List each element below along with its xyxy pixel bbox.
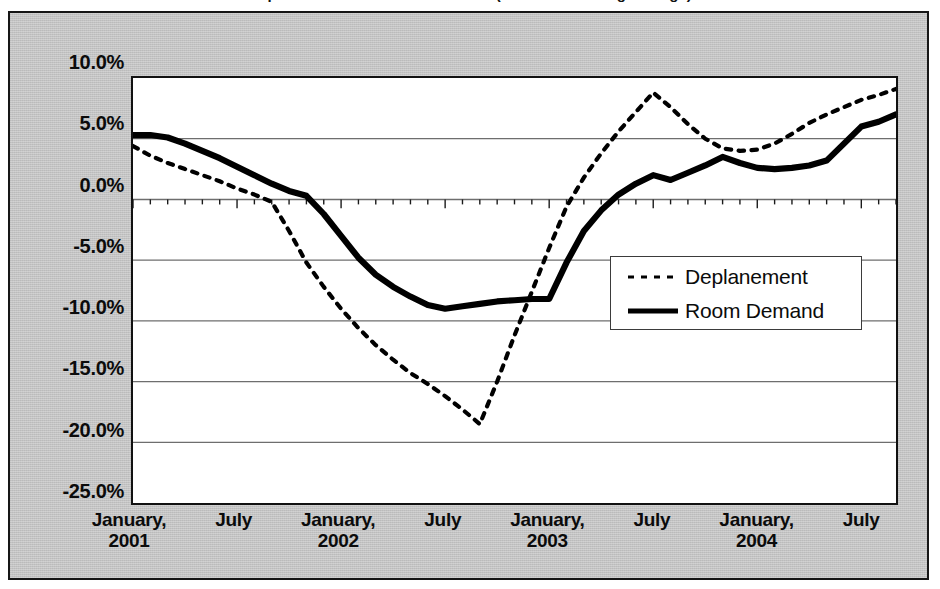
- y-axis-label: 5.0%: [16, 112, 124, 135]
- chart-screenshot: Deplanements and Room Demand (12-month m…: [0, 0, 940, 589]
- x-axis: January, 2001JulyJanuary, 2002JulyJanuar…: [123, 509, 913, 569]
- legend-swatch-dotted-icon: [625, 267, 681, 287]
- legend-swatch-solid-icon: [625, 301, 681, 321]
- legend-item-deplanement: Deplanement: [611, 259, 861, 295]
- legend-label-deplanement: Deplanement: [685, 265, 808, 289]
- y-axis-label: -5.0%: [16, 235, 124, 258]
- y-axis-label: 10.0%: [16, 51, 124, 74]
- legend-label-room-demand: Room Demand: [685, 299, 824, 323]
- y-axis-label: -25.0%: [16, 480, 124, 503]
- y-axis-label: -10.0%: [16, 296, 124, 319]
- y-axis-label: -15.0%: [16, 357, 124, 380]
- y-axis-label: -20.0%: [16, 419, 124, 442]
- x-axis-label: July: [786, 509, 936, 530]
- chart-title-partial: Deplanements and Room Demand (12-month m…: [0, 0, 940, 4]
- chart-legend: Deplanement Room Demand: [610, 256, 862, 330]
- x-axis-tick-marks: [133, 199, 896, 208]
- legend-item-room-demand: Room Demand: [611, 293, 861, 329]
- chart-frame: 10.0%5.0%0.0%-5.0%-10.0%-15.0%-20.0%-25.…: [8, 11, 929, 580]
- y-axis: 10.0%5.0%0.0%-5.0%-10.0%-15.0%-20.0%-25.…: [10, 13, 124, 582]
- y-axis-label: 0.0%: [16, 174, 124, 197]
